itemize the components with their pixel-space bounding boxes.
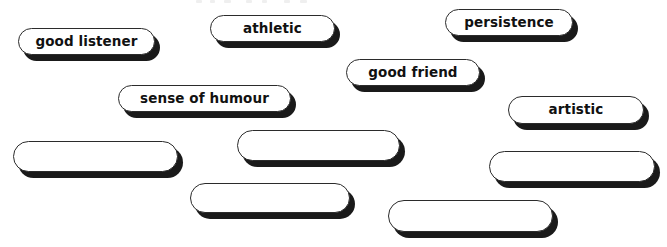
pill-body[interactable]: good friend	[346, 59, 480, 86]
pill-body[interactable]: sense of humour	[118, 85, 291, 112]
pill-body[interactable]	[388, 200, 553, 232]
edge-artifact-mark	[300, 0, 307, 3]
edge-artifact-mark	[224, 0, 231, 3]
blank-pill[interactable]	[489, 151, 655, 182]
scan-edge-artifacts	[0, 0, 667, 4]
blank-pill[interactable]	[388, 200, 553, 232]
quality-pill-good-friend[interactable]: good friend	[346, 59, 480, 86]
blank-pill[interactable]	[237, 130, 400, 161]
quality-pill-sense-of-humour[interactable]: sense of humour	[118, 85, 291, 112]
edge-artifact-mark	[210, 0, 215, 3]
pill-body[interactable]: persistence	[445, 9, 573, 36]
pill-body[interactable]	[13, 141, 178, 172]
blank-pill[interactable]	[190, 183, 350, 213]
pill-body[interactable]: artistic	[508, 96, 644, 124]
pill-label: persistence	[458, 16, 560, 30]
pill-body[interactable]	[190, 183, 350, 213]
pill-body[interactable]	[237, 130, 400, 161]
quality-pill-good-listener[interactable]: good listener	[18, 28, 155, 55]
edge-artifact-mark	[196, 0, 202, 3]
pill-label: good listener	[29, 35, 143, 49]
edge-artifact-mark	[262, 0, 267, 3]
worksheet-canvas: good listenerathleticpersistencegood fri…	[0, 0, 667, 247]
quality-pill-persistence[interactable]: persistence	[445, 9, 573, 36]
pill-body[interactable]	[489, 151, 655, 182]
pill-label: athletic	[237, 22, 308, 36]
quality-pill-athletic[interactable]: athletic	[210, 15, 335, 42]
pill-label: good friend	[362, 66, 463, 80]
edge-artifact-mark	[246, 0, 252, 3]
pill-body[interactable]: good listener	[18, 28, 155, 55]
pill-label: artistic	[543, 103, 610, 117]
pill-body[interactable]: athletic	[210, 15, 335, 42]
pill-label: sense of humour	[134, 92, 275, 106]
blank-pill[interactable]	[13, 141, 178, 172]
edge-artifact-mark	[284, 0, 290, 3]
quality-pill-artistic[interactable]: artistic	[508, 96, 644, 124]
